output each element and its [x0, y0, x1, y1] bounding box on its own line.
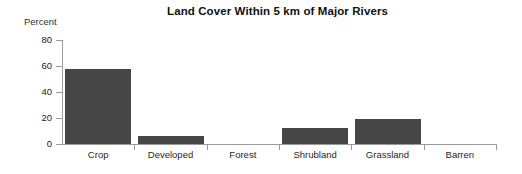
- y-axis-tick: [56, 118, 63, 119]
- x-axis-category-label: Grassland: [351, 149, 423, 160]
- y-axis-tick-label-text: 60: [26, 61, 52, 71]
- y-axis-tick-label: 80: [22, 35, 52, 45]
- bar-developed: [138, 136, 204, 144]
- y-axis-tick: [56, 144, 63, 145]
- y-axis-tick-label: 60: [22, 61, 52, 71]
- y-axis-tick: [56, 66, 63, 67]
- x-axis-category-label: Barren: [424, 149, 496, 160]
- y-axis-tick-label-text: 20: [26, 113, 52, 123]
- bar-grassland: [355, 119, 421, 144]
- x-axis-tick: [496, 144, 497, 150]
- y-axis-tick-label: 20: [22, 113, 52, 123]
- x-axis-category-label: Shrubland: [279, 149, 351, 160]
- chart-container: Land Cover Within 5 km of Major Rivers P…: [0, 0, 522, 174]
- y-axis-tick: [56, 92, 63, 93]
- x-axis-category-label: Forest: [207, 149, 279, 160]
- x-axis-category-label: Developed: [134, 149, 206, 160]
- y-axis-tick-label: 0: [22, 139, 52, 149]
- y-axis-tick-label-text: 0: [26, 139, 52, 149]
- y-axis-tick-label-text: 80: [26, 35, 52, 45]
- x-axis-category-label: Crop: [62, 149, 134, 160]
- y-axis-tick-label-text: 40: [26, 87, 52, 97]
- plot-area: 020406080 CropDevelopedForestShrublandGr…: [0, 0, 522, 174]
- bar-shrubland: [282, 128, 348, 144]
- y-axis-tick: [56, 40, 63, 41]
- y-axis-tick-label: 40: [22, 87, 52, 97]
- bar-crop: [65, 69, 131, 144]
